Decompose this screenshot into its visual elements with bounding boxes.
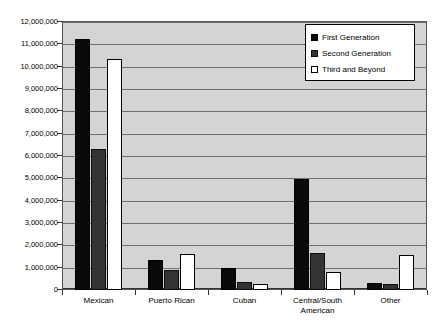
y-axis-tick-label: 1,000,000 [25, 262, 58, 271]
bar [310, 253, 325, 290]
x-axis-tick-label: Puerto Rican [135, 296, 208, 306]
y-axis-tick-label: 9,000,000 [25, 84, 58, 93]
x-axis-tick [281, 290, 282, 295]
x-axis-tick [208, 290, 209, 295]
x-axis-tick-label-line: Cuban [208, 296, 281, 306]
bar [75, 39, 90, 290]
y-axis-tick-label: 0 [54, 285, 58, 294]
bar [180, 254, 195, 290]
y-axis-tick-label: 4,000,000 [25, 195, 58, 204]
x-axis-tick-label-line: Other [354, 296, 427, 306]
x-axis-tick-label: Central/SouthAmerican [281, 296, 354, 316]
legend-item: Third and Beyond [311, 61, 409, 77]
x-axis-tick [135, 290, 136, 295]
bar [164, 270, 179, 290]
x-axis-tick [427, 290, 428, 295]
x-axis-tick-label: Mexican [62, 296, 135, 306]
y-axis-tick-label: 6,000,000 [25, 151, 58, 160]
bar [326, 272, 341, 290]
y-axis-labels: 12,000,00011,000,00010,000,0009,000,0008… [0, 21, 58, 290]
x-axis-tick-label-line: Central/South [281, 296, 354, 306]
x-axis-tick-label-line: Puerto Rican [135, 296, 208, 306]
x-axis-tick-label: Other [354, 296, 427, 306]
y-axis-tick-label: 11,000,000 [21, 39, 58, 48]
legend-label: Third and Beyond [322, 65, 385, 74]
bar [294, 179, 309, 290]
x-axis-tick-label-line: American [281, 306, 354, 316]
chart-legend: First Generation Second Generation Third… [305, 24, 415, 81]
x-axis-tick-label: Cuban [208, 296, 281, 306]
y-axis-tick-label: 8,000,000 [25, 106, 58, 115]
bar [148, 260, 163, 290]
bar [253, 284, 268, 290]
legend-item: Second Generation [311, 45, 409, 61]
bar-group [208, 21, 281, 290]
bar [221, 268, 236, 290]
bar [91, 149, 106, 290]
x-axis-tick [354, 290, 355, 295]
bar [107, 59, 122, 290]
y-axis-tick-label: 2,000,000 [25, 240, 58, 249]
legend-swatch-second-generation [311, 50, 318, 57]
y-axis-tick-label: 3,000,000 [25, 218, 58, 227]
legend-swatch-first-generation [311, 34, 318, 41]
bar [399, 255, 414, 290]
legend-swatch-third-and-beyond [311, 66, 318, 73]
x-axis-tick [62, 290, 63, 295]
bar [367, 283, 382, 290]
y-axis-tick-label: 7,000,000 [25, 128, 58, 137]
legend-label: Second Generation [322, 49, 391, 58]
y-axis-tick-label: 10,000,000 [20, 61, 58, 70]
y-axis-tick-label: 5,000,000 [25, 173, 58, 182]
bar [383, 284, 398, 290]
bar [237, 282, 252, 290]
y-axis-tick-label: 12,000,000 [20, 17, 58, 26]
x-axis-labels: MexicanPuerto RicanCubanCentral/SouthAme… [62, 296, 427, 322]
bar-chart: 12,000,00011,000,00010,000,0009,000,0008… [0, 0, 439, 326]
legend-item: First Generation [311, 29, 409, 45]
bar-group [62, 21, 135, 290]
x-axis-tick-label-line: Mexican [62, 296, 135, 306]
legend-label: First Generation [322, 33, 379, 42]
bar-group [135, 21, 208, 290]
